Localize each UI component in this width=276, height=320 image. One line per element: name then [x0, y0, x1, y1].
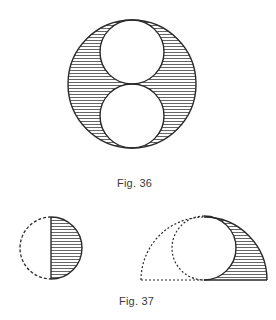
fig-36-diagram	[66, 18, 198, 152]
hatched-region	[66, 18, 198, 152]
hatched-half-disk	[51, 217, 82, 279]
figures-canvas	[0, 0, 276, 320]
dotted-inner-arc	[172, 216, 204, 280]
dashed-left-arc	[20, 217, 51, 279]
fig-37-left-diagram	[20, 217, 82, 279]
fig-37-caption: Fig. 37	[119, 295, 154, 307]
fig-37-right-diagram	[141, 214, 270, 284]
dotted-outer-arc	[141, 217, 204, 280]
fig-36-caption: Fig. 36	[117, 177, 152, 189]
